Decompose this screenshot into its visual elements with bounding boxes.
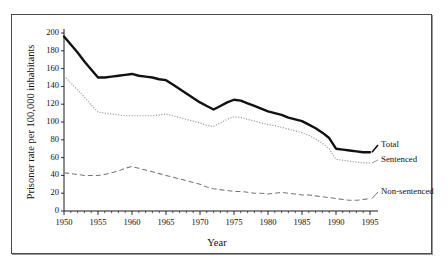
series-line-total bbox=[64, 37, 370, 153]
x-tick-label: 1955 bbox=[90, 217, 107, 227]
series-line-sentenced bbox=[64, 76, 370, 163]
y-tick-label: 120 bbox=[46, 98, 59, 108]
x-tick-label: 1995 bbox=[362, 217, 379, 227]
x-tick-label: 1960 bbox=[124, 217, 141, 227]
y-tick-label: 140 bbox=[46, 80, 59, 90]
line-chart: 020406080100120140160180200 195019551960… bbox=[0, 0, 448, 267]
x-tick-label: 1965 bbox=[158, 217, 175, 227]
x-tick-label: 1985 bbox=[294, 217, 311, 227]
y-tick-label: 40 bbox=[51, 169, 60, 179]
y-axis-group: 020406080100120140160180200 bbox=[46, 27, 64, 215]
x-axis-group: 1950195519601965197019751980198519901995 bbox=[56, 211, 379, 227]
series-leader-line bbox=[372, 192, 378, 199]
y-axis-title: Prisoner rate per 100,000 inhabitants bbox=[25, 45, 36, 200]
y-tick-label: 0 bbox=[55, 205, 59, 215]
y-tick-label: 200 bbox=[46, 27, 59, 37]
x-tick-label: 1975 bbox=[226, 217, 243, 227]
y-tick-label: 60 bbox=[51, 152, 60, 162]
figure-container: 020406080100120140160180200 195019551960… bbox=[0, 0, 448, 267]
y-tick-label: 180 bbox=[46, 45, 59, 55]
x-tick-label: 1950 bbox=[56, 217, 73, 227]
data-series-group bbox=[64, 37, 370, 201]
y-tick-label: 100 bbox=[46, 116, 59, 126]
series-leader-line bbox=[372, 160, 378, 163]
series-label-total: Total bbox=[381, 139, 400, 149]
y-tick-label: 160 bbox=[46, 63, 59, 73]
y-tick-label: 80 bbox=[51, 134, 60, 144]
y-tick-label: 20 bbox=[51, 187, 60, 197]
x-axis-title: Year bbox=[207, 237, 227, 248]
series-label-group: TotalSentencedNon-sentenced bbox=[372, 139, 434, 199]
series-line-non-sentenced bbox=[64, 167, 370, 201]
series-label-non-sentenced: Non-sentenced bbox=[381, 186, 434, 196]
series-label-sentenced: Sentenced bbox=[381, 154, 418, 164]
x-tick-label: 1980 bbox=[260, 217, 277, 227]
series-leader-line bbox=[372, 145, 378, 152]
x-tick-label: 1970 bbox=[192, 217, 209, 227]
x-tick-label: 1990 bbox=[328, 217, 345, 227]
